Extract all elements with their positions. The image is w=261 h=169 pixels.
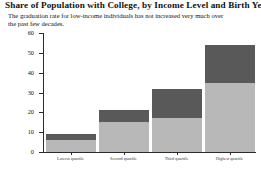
- bar-stack[interactable]: [152, 33, 202, 152]
- x-axis-tick: [177, 152, 178, 155]
- bar-stack[interactable]: [205, 33, 255, 152]
- x-axis-label: Third quartile: [151, 156, 203, 161]
- y-axis-tick-label: 20: [8, 108, 34, 115]
- bar-segment-upper[interactable]: [152, 89, 202, 119]
- chart-page: Share of Population with College, by Inc…: [0, 0, 261, 169]
- y-axis-tick-label: 60: [8, 29, 34, 36]
- bar-segment-lower[interactable]: [99, 122, 149, 152]
- bar-segment-upper[interactable]: [99, 110, 149, 122]
- x-axis-label: Second quartile: [98, 156, 150, 161]
- x-axis-tick: [71, 152, 72, 155]
- y-axis-tick-label: 30: [8, 89, 34, 96]
- bar-segment-lower[interactable]: [152, 118, 202, 152]
- y-axis-tick: [39, 112, 43, 113]
- bar-segment-upper[interactable]: [46, 134, 96, 140]
- y-axis-tick: [39, 152, 43, 153]
- x-axis-line: [43, 152, 256, 153]
- bar-segment-upper[interactable]: [205, 45, 255, 83]
- x-axis-tick: [230, 152, 231, 155]
- bar-stack[interactable]: [46, 33, 96, 152]
- x-axis-label: Highest quartile: [204, 156, 256, 161]
- y-axis-tick: [39, 132, 43, 133]
- bar-stack[interactable]: [99, 33, 149, 152]
- y-axis-tick: [39, 73, 43, 74]
- x-axis-label: Lowest quartile: [45, 156, 97, 161]
- y-axis-tick-label: 40: [8, 69, 34, 76]
- chart-title: Share of Population with College, by Inc…: [5, 0, 258, 11]
- bar-segment-lower[interactable]: [46, 140, 96, 152]
- x-axis-tick: [124, 152, 125, 155]
- bar-series-container: [44, 33, 256, 152]
- bar-segment-lower[interactable]: [205, 83, 255, 152]
- y-axis-tick: [39, 33, 43, 34]
- y-axis-tick-label: 10: [8, 128, 34, 135]
- chart-subtitle: The graduation rate for low-income indiv…: [8, 12, 230, 27]
- y-axis-tick-label: 0: [8, 148, 34, 155]
- y-axis-tick: [39, 53, 43, 54]
- y-axis-tick-label: 50: [8, 49, 34, 56]
- y-axis-tick: [39, 93, 43, 94]
